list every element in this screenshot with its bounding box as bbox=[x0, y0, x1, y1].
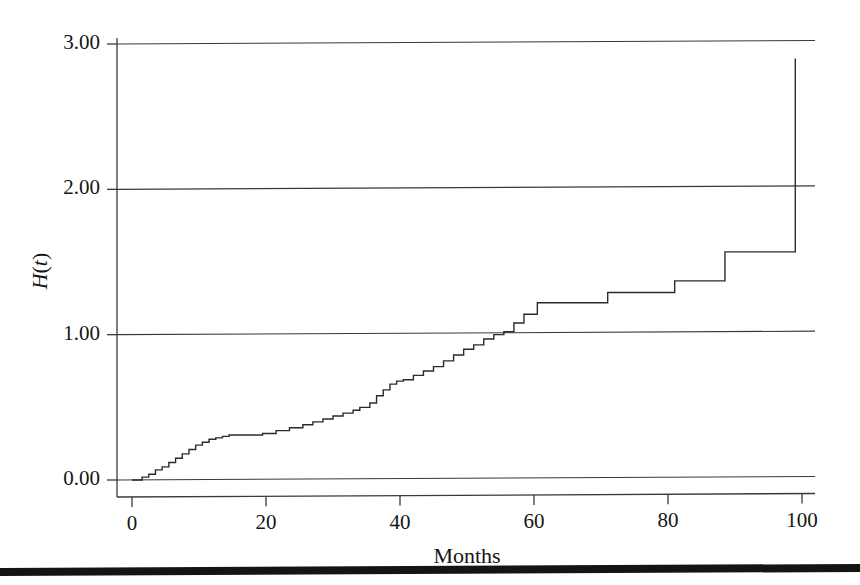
y-tick-label-1: 1.00 bbox=[12, 321, 100, 346]
x-tick-label-80: 80 bbox=[628, 508, 708, 533]
x-tick-label-20: 20 bbox=[226, 510, 306, 535]
gridlines bbox=[117, 41, 815, 481]
y-axis-title: H(t) bbox=[27, 241, 53, 301]
axis-lines bbox=[117, 38, 815, 497]
y-axis-title-function: H bbox=[27, 273, 52, 289]
y-axis-title-paren-open: ( bbox=[27, 266, 52, 273]
x-tick-label-40: 40 bbox=[360, 510, 440, 535]
x-tick-label-0: 0 bbox=[92, 511, 172, 536]
y-tick-label-0: 0.00 bbox=[12, 466, 100, 491]
axis-ticks bbox=[107, 44, 802, 507]
y-tick-label-3: 3.00 bbox=[12, 30, 100, 55]
x-tick-label-100: 100 bbox=[762, 508, 842, 533]
y-axis-title-variable: t bbox=[27, 260, 52, 266]
y-tick-label-2: 2.00 bbox=[12, 175, 100, 200]
x-tick-label-60: 60 bbox=[494, 509, 574, 534]
data-series-step-line bbox=[132, 59, 795, 480]
chart-plot-area bbox=[0, 0, 860, 585]
y-axis-title-paren-close: ) bbox=[27, 253, 52, 260]
figure-canvas: 0.00 1.00 2.00 3.00 0 20 40 60 80 100 Mo… bbox=[0, 0, 860, 585]
